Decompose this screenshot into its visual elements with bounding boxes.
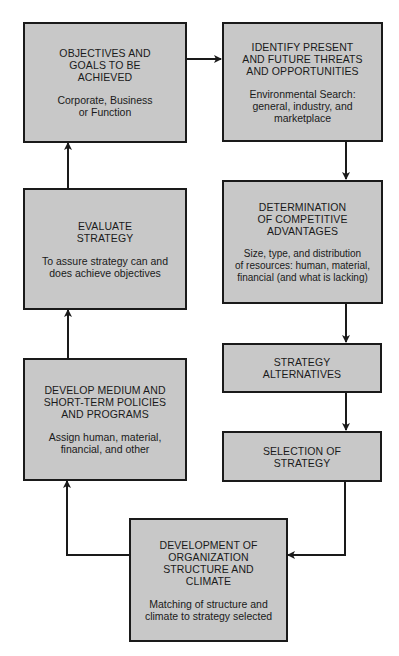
node-determination: DETERMINATION OF COMPETITIVE ADVANTAGES … <box>222 180 383 304</box>
node-organization-title: DEVELOPMENT OF ORGANIZATION STRUCTURE AN… <box>159 539 257 587</box>
node-identify: IDENTIFY PRESENT AND FUTURE THREATS AND … <box>222 22 383 142</box>
node-alternatives-title: STRATEGY ALTERNATIVES <box>263 356 341 380</box>
node-policies-description: Assign human, material, financial, and o… <box>49 431 162 455</box>
node-selection: SELECTION OF STRATEGY <box>222 431 382 482</box>
node-objectives-title: OBJECTIVES AND GOALS TO BE ACHIEVED <box>59 47 150 83</box>
arrow-selection-to-organization <box>288 481 345 555</box>
node-determination-title: DETERMINATION OF COMPETITIVE ADVANTAGES <box>257 201 347 237</box>
node-selection-title: SELECTION OF STRATEGY <box>263 445 341 469</box>
node-evaluate-title: EVALUATE STRATEGY <box>77 220 134 244</box>
node-policies-title: DEVELOP MEDIUM AND SHORT-TERM POLICIES A… <box>44 384 166 420</box>
node-objectives: OBJECTIVES AND GOALS TO BE ACHIEVED Corp… <box>23 22 187 143</box>
node-organization-description: Matching of structure and climate to str… <box>145 598 272 622</box>
node-determination-description: Size, type, and distribution of resource… <box>235 248 370 284</box>
node-identify-description: Environmental Search: general, industry,… <box>249 88 355 124</box>
node-alternatives: STRATEGY ALTERNATIVES <box>222 343 382 393</box>
node-evaluate: EVALUATE STRATEGY To assure strategy can… <box>23 188 187 310</box>
node-identify-title: IDENTIFY PRESENT AND FUTURE THREATS AND … <box>242 41 362 77</box>
node-objectives-description: Corporate, Business or Function <box>57 94 152 118</box>
node-evaluate-description: To assure strategy can and does achieve … <box>42 255 168 279</box>
node-policies: DEVELOP MEDIUM AND SHORT-TERM POLICIES A… <box>23 358 187 481</box>
arrow-organization-to-policies <box>67 481 129 555</box>
node-organization: DEVELOPMENT OF ORGANIZATION STRUCTURE AN… <box>129 518 288 642</box>
